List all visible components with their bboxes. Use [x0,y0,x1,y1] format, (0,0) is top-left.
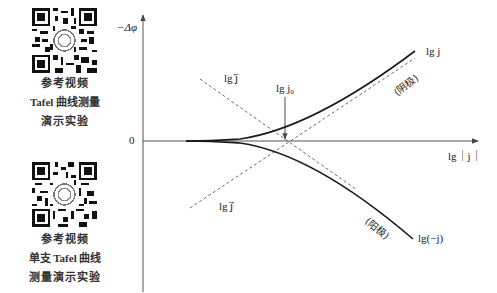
origin-label: 0 [129,134,135,146]
exchange-current-label: lg j₀ [276,82,294,94]
cathode-curve-label: lg j [426,45,440,57]
anode-curve-label: lg(−j) [418,232,443,244]
y-axis-label: −Δφ [117,21,137,33]
cathode-polarization-curve [186,51,415,141]
anodic-partial-label: lg j⃗ [219,200,233,213]
tafel-diagram [0,0,497,293]
cathodic-partial-label: lg j⃖ [224,72,238,85]
cathodic-partial-line [200,79,357,190]
x-axis-label: lg｜j｜ [448,147,482,163]
